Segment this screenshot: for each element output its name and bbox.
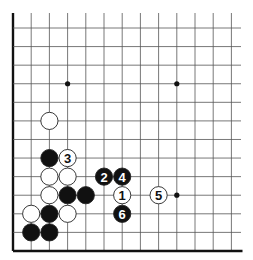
white-stone-body (23, 205, 40, 222)
white-stone (41, 187, 58, 204)
black-stone-body (41, 224, 58, 241)
black-stone-body (23, 224, 40, 241)
white-stone (59, 205, 76, 222)
black-stone (41, 224, 58, 241)
white-stone (41, 112, 58, 129)
white-stone: 1 (114, 187, 131, 204)
white-stone: 5 (150, 187, 167, 204)
black-stone-body (41, 205, 58, 222)
star-point (174, 193, 179, 198)
white-stone-body (59, 205, 76, 222)
black-stone: 6 (114, 205, 131, 222)
white-stone-body (59, 168, 76, 185)
move-number-label: 1 (119, 188, 126, 203)
move-number-label: 6 (119, 207, 126, 222)
black-stone (41, 205, 58, 222)
black-stone (59, 187, 76, 204)
white-stone (41, 168, 58, 185)
white-stone: 3 (59, 149, 76, 166)
black-stone (77, 187, 94, 204)
move-number-label: 2 (100, 170, 107, 185)
white-stone-body (41, 168, 58, 185)
star-point (65, 81, 70, 86)
white-stone-body (41, 187, 58, 204)
move-number-label: 3 (64, 151, 71, 166)
star-point (174, 81, 179, 86)
white-stone-body (41, 112, 58, 129)
white-stone (59, 168, 76, 185)
black-stone-body (41, 149, 58, 166)
black-stone (41, 149, 58, 166)
black-stone-body (77, 187, 94, 204)
white-stone (23, 205, 40, 222)
black-stone: 4 (114, 168, 131, 185)
black-stone-body (59, 187, 76, 204)
black-stone: 2 (95, 168, 112, 185)
move-number-label: 4 (119, 170, 127, 185)
move-number-label: 5 (155, 188, 162, 203)
go-board: 324156 (0, 0, 253, 260)
black-stone (23, 224, 40, 241)
